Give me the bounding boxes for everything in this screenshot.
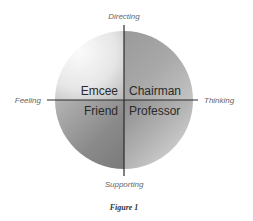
axis-label-left: Feeling [15,96,42,105]
axis-label-top: Directing [108,12,140,21]
quadrant-label-bottom-left: Friend [84,104,118,118]
axis-label-bottom: Supporting [105,180,144,189]
quadrant-label-bottom-right: Professor [129,104,180,118]
figure-caption: Figure 1 [109,203,139,212]
axis-label-right: Thinking [204,96,235,105]
quadrant-diagram: Directing Supporting Feeling Thinking Em… [0,0,253,221]
quadrant-label-top-left: Emcee [81,84,119,98]
quadrant-label-top-right: Chairman [129,84,181,98]
